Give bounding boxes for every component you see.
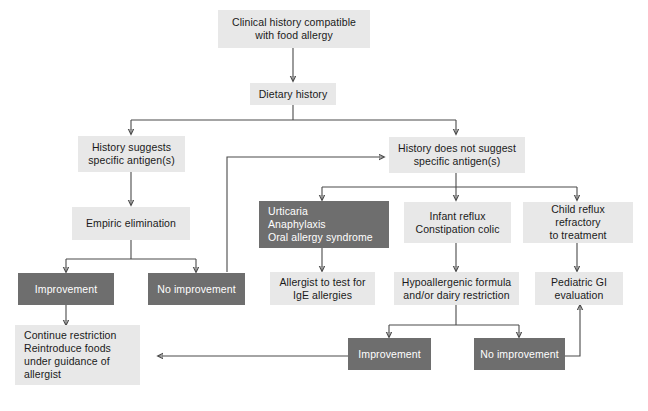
node-empiric-elimination: Empiric elimination [72,207,190,240]
node-improvement-right: Improvement [348,338,431,370]
node-history-does-not-suggest: History does not suggest specific antige… [389,137,525,173]
node-infant-reflux: Infant reflux Constipation colic [404,202,511,243]
node-improvement-left: Improvement [18,273,114,305]
node-continue-restriction: Continue restriction Reintroduce foods u… [15,325,140,385]
node-pediatric-gi-evaluation: Pediatric GI evaluation [535,272,623,305]
node-allergist-test: Allergist to test for IgE allergies [270,272,375,305]
node-clinical-history: Clinical history compatible with food al… [218,10,370,48]
node-urticaria-group: Urticaria Anaphylaxis Oral allergy syndr… [259,201,389,248]
node-no-improvement-right: No improvement [474,338,565,370]
node-hypoallergenic-formula: Hypoallergenic formula and/or dairy rest… [394,272,519,305]
flowchart-canvas: Clinical history compatible with food al… [0,0,648,411]
node-child-reflux: Child reflux refractory to treatment [523,202,633,243]
node-no-improvement-left: No improvement [148,273,245,305]
node-dietary-history: Dietary history [250,83,336,105]
node-history-suggests: History suggests specific antigen(s) [78,136,185,172]
